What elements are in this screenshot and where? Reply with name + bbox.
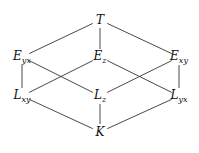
node-subscript: xy bbox=[179, 56, 188, 65]
node-subscript: yx bbox=[178, 95, 187, 104]
node-e-yx: Eyx bbox=[13, 50, 31, 65]
edge-L_xy-K bbox=[29, 99, 92, 128]
node-l-xy: Lxy bbox=[14, 89, 31, 104]
node-l-yx: Lyx bbox=[171, 89, 188, 104]
node-label: L bbox=[171, 88, 179, 102]
node-e-xy: Exy bbox=[170, 50, 188, 65]
edge-T-E_yx bbox=[29, 23, 93, 53]
node-subscript: z bbox=[102, 95, 106, 104]
edge-T-E_xy bbox=[107, 23, 172, 53]
node-label: K bbox=[96, 125, 105, 139]
node-label: E bbox=[170, 49, 179, 63]
node-k: K bbox=[96, 126, 105, 138]
node-label: E bbox=[94, 49, 103, 63]
node-label: E bbox=[13, 49, 22, 63]
node-label: T bbox=[96, 13, 104, 27]
node-l-z: Lz bbox=[94, 89, 106, 104]
node-label: L bbox=[94, 88, 102, 102]
edge-L_yx-K bbox=[107, 99, 171, 128]
node-t: T bbox=[96, 14, 104, 26]
node-subscript: z bbox=[102, 56, 106, 65]
node-subscript: xy bbox=[21, 95, 30, 104]
node-label: L bbox=[14, 88, 22, 102]
node-subscript: yx bbox=[22, 56, 31, 65]
node-e-z: Ez bbox=[94, 50, 107, 65]
